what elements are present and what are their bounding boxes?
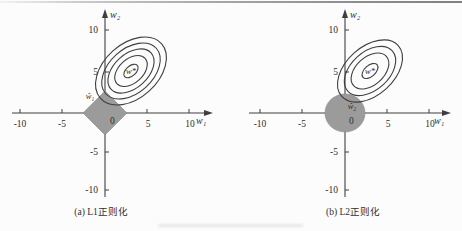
plot-l2-axes-group: -10 -5 5 10 10 5 -5 -10 0 w₁ w₂ w* ŵ₂	[249, 9, 451, 197]
y-tick-label: 10	[89, 25, 99, 35]
x-tick-label: 5	[146, 119, 151, 129]
y-tick-label: 10	[329, 25, 339, 35]
origin-label: 0	[349, 116, 354, 126]
x-tick-label: 5	[386, 119, 391, 129]
y-axis-label: w₂	[350, 9, 361, 20]
x-axis-label: w₁	[434, 115, 444, 126]
textbook-figure-regularization: -10 -5 5 10 10 5 -5 -10 0 w₁ w₂ w* ŵ₁ (a…	[0, 0, 462, 231]
optimum-label: w*	[126, 66, 137, 76]
y-axis-label: w₂	[110, 9, 121, 20]
y-tick-label: -10	[85, 185, 98, 195]
x-tick-label: 10	[185, 119, 195, 129]
x-tick-label: -5	[298, 119, 306, 129]
x-tick-label: -10	[14, 119, 27, 129]
origin-label: 0	[110, 116, 115, 126]
caption-l1: (a) L1正则化	[74, 206, 127, 218]
y-tick-label: -10	[325, 185, 338, 195]
y-axis-arrow-icon	[342, 9, 348, 18]
plot-l1-regularization: -10 -5 5 10 10 5 -5 -10 0 w₁ w₂ w* ŵ₁ (a…	[0, 0, 231, 231]
plot-l1-axes-group: -10 -5 5 10 10 5 -5 -10 0 w₁ w₂ w* ŵ₁	[12, 9, 213, 197]
y-axis-arrow-icon	[102, 9, 108, 18]
plot-l2-regularization: -10 -5 5 10 10 5 -5 -10 0 w₁ w₂ w* ŵ₂ (b…	[231, 0, 462, 231]
x-tick-label: -5	[58, 119, 66, 129]
y-tick-label: -5	[90, 147, 98, 157]
optimum-label: w*	[365, 66, 376, 76]
l2-solution-label: ŵ₂	[348, 101, 357, 111]
y-tick-label: -5	[330, 147, 338, 157]
x-axis-label: w₁	[196, 115, 206, 126]
scan-artifact	[158, 224, 303, 227]
caption-l2: (b) L2正则化	[326, 206, 380, 218]
l1-solution-label: ŵ₁	[86, 91, 95, 101]
x-tick-label: -10	[254, 119, 267, 129]
y-tick-label: 5	[93, 67, 98, 77]
y-tick-label: 5	[333, 67, 338, 77]
